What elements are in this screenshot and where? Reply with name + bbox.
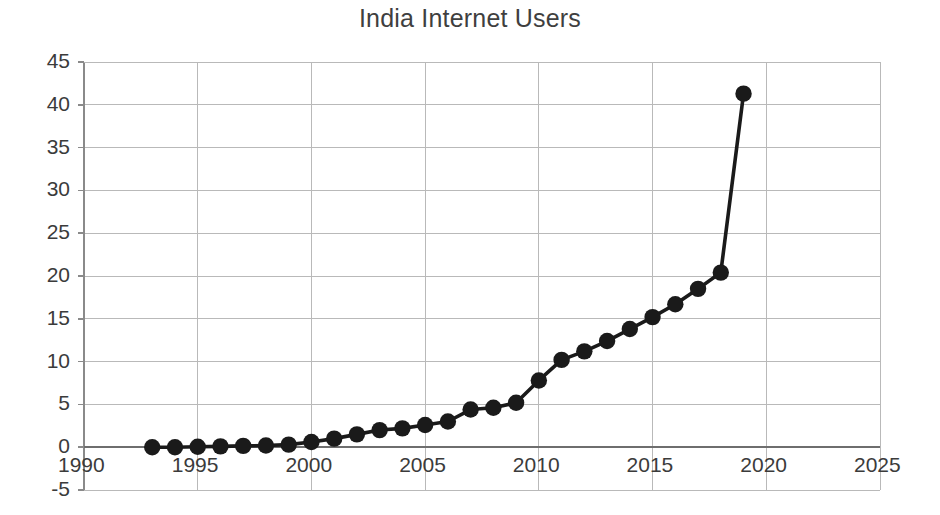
- data-point-1996: [212, 438, 228, 454]
- data-point-2010: [531, 372, 547, 388]
- y-tick-label-20: 20: [8, 263, 70, 287]
- data-point-2008: [485, 400, 501, 416]
- horizontal-gridlines: [84, 62, 880, 490]
- line-chart-plot: [0, 0, 940, 515]
- data-point-2001: [326, 430, 342, 446]
- y-tick-label-5: 5: [8, 391, 70, 415]
- y-tick-label-35: 35: [8, 135, 70, 159]
- data-point-1997: [235, 438, 251, 454]
- series-markers: [144, 85, 752, 455]
- y-tick-label--5: -5: [8, 477, 70, 501]
- x-tick-label-2000: 2000: [285, 453, 332, 477]
- x-tick-label-2025: 2025: [854, 453, 901, 477]
- data-point-2011: [553, 352, 569, 368]
- x-tick-label-2020: 2020: [740, 453, 787, 477]
- data-point-2014: [622, 321, 638, 337]
- y-tick-label-25: 25: [8, 220, 70, 244]
- data-point-2016: [667, 296, 683, 312]
- data-point-2007: [462, 401, 478, 417]
- y-tick-label-10: 10: [8, 349, 70, 373]
- data-point-2004: [394, 420, 410, 436]
- data-point-2017: [690, 281, 706, 297]
- data-point-2015: [644, 309, 660, 325]
- x-tick-label-2005: 2005: [399, 453, 446, 477]
- data-point-2019: [735, 85, 751, 101]
- data-point-1999: [280, 436, 296, 452]
- y-tick-label-45: 45: [8, 49, 70, 73]
- data-point-1993: [144, 439, 160, 455]
- data-point-2003: [371, 422, 387, 438]
- y-tick-label-40: 40: [8, 92, 70, 116]
- x-tick-label-2015: 2015: [627, 453, 674, 477]
- data-point-1998: [258, 437, 274, 453]
- y-tick-label-30: 30: [8, 177, 70, 201]
- data-point-2002: [349, 426, 365, 442]
- data-point-2012: [576, 343, 592, 359]
- chart-container: India Internet Users -505101520253035404…: [0, 0, 940, 515]
- x-tick-label-2010: 2010: [513, 453, 560, 477]
- data-point-2005: [417, 417, 433, 433]
- series-line-india-internet-users: [152, 94, 743, 448]
- data-point-2013: [599, 333, 615, 349]
- data-point-2018: [713, 264, 729, 280]
- data-point-2006: [440, 413, 456, 429]
- x-tick-label-1990: 1990: [58, 453, 105, 477]
- x-tick-label-1995: 1995: [172, 453, 219, 477]
- axis-tick-marks: [78, 62, 84, 490]
- data-point-2009: [508, 394, 524, 410]
- y-tick-label-15: 15: [8, 306, 70, 330]
- data-point-2000: [303, 434, 319, 450]
